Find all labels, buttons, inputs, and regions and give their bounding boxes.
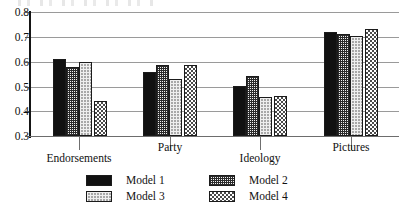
bar-endorsements-model-1 bbox=[53, 59, 66, 136]
plot-area bbox=[29, 12, 399, 136]
bar-endorsements-model-3 bbox=[79, 62, 92, 136]
bar-ideology-model-3 bbox=[259, 97, 272, 136]
bar-pictures-model-3 bbox=[350, 36, 363, 136]
bar-group-pictures bbox=[324, 12, 380, 136]
bar-party-model-4 bbox=[184, 65, 197, 136]
scan-artifact bbox=[18, 0, 158, 6]
x-tick-label-endorsements: Endorsements bbox=[24, 152, 134, 164]
x-tick-label-ideology: Ideology bbox=[220, 152, 300, 164]
x-axis-line bbox=[29, 136, 399, 137]
legend-swatch-model-3 bbox=[86, 191, 112, 202]
bar-ideology-model-2 bbox=[246, 76, 259, 136]
bar-group-endorsements bbox=[53, 12, 109, 136]
legend-swatch-model-1 bbox=[86, 175, 112, 186]
bar-pictures-model-2 bbox=[337, 34, 350, 136]
bar-endorsements-model-2 bbox=[66, 67, 79, 136]
bar-group-ideology bbox=[233, 12, 289, 136]
legend-swatch-model-4 bbox=[209, 191, 235, 202]
legend-swatch-model-2 bbox=[209, 175, 235, 186]
bar-party-model-3 bbox=[169, 79, 182, 136]
bar-endorsements-model-4 bbox=[94, 101, 107, 136]
bar-ideology-model-1 bbox=[233, 86, 246, 136]
bar-party-model-1 bbox=[143, 72, 156, 136]
x-tick-label-party: Party bbox=[130, 141, 210, 153]
y-axis: 0.8 0.7 0.6 0.5 0.4 0.3 bbox=[0, 0, 29, 212]
legend-label-model-3: Model 3 bbox=[126, 190, 165, 203]
legend: Model 1 Model 3 Model 2 Model 4 bbox=[86, 174, 326, 206]
y-axis-line bbox=[29, 11, 31, 138]
x-tick-mark bbox=[260, 137, 261, 150]
legend-label-model-1: Model 1 bbox=[126, 174, 165, 187]
bar-group-party bbox=[143, 12, 199, 136]
bar-party-model-2 bbox=[156, 65, 169, 136]
x-tick-mark bbox=[79, 137, 80, 150]
bar-chart-figure: 0.8 0.7 0.6 0.5 0.4 0.3 bbox=[0, 0, 399, 212]
legend-label-model-2: Model 2 bbox=[249, 174, 288, 187]
x-tick-label-pictures: Pictures bbox=[311, 141, 391, 153]
bar-ideology-model-4 bbox=[274, 96, 287, 136]
bar-pictures-model-1 bbox=[324, 32, 337, 136]
bar-pictures-model-4 bbox=[365, 29, 378, 136]
legend-label-model-4: Model 4 bbox=[249, 190, 288, 203]
